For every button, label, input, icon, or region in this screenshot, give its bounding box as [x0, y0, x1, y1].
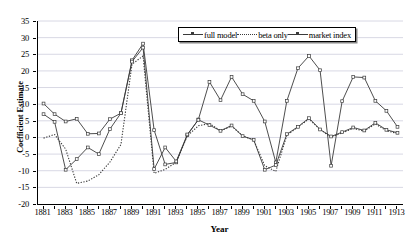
- plot-area: [37, 21, 403, 205]
- y-tick-label: -20: [18, 200, 29, 209]
- y-tick-mark: [33, 21, 36, 22]
- y-tick-mark: [33, 88, 36, 89]
- data-point-marker: [352, 76, 355, 79]
- data-point-marker: [341, 100, 344, 103]
- x-tick-label: 1885: [79, 208, 95, 217]
- data-point-marker: [330, 164, 333, 167]
- data-point-marker: [363, 129, 366, 132]
- data-point-marker: [274, 164, 277, 167]
- y-tick-label: -15: [18, 183, 29, 192]
- x-tick-mark: [76, 206, 77, 209]
- y-tick-label: 5: [25, 116, 29, 125]
- data-point-marker: [241, 135, 244, 138]
- x-tick-label: 1895: [189, 208, 205, 217]
- x-tick-label: 1897: [212, 208, 228, 217]
- data-series-layer: [38, 21, 403, 204]
- series-line-beta-only: [44, 56, 398, 183]
- data-point-marker: [75, 158, 78, 161]
- x-tick-mark: [253, 206, 254, 209]
- y-tick-mark: [33, 104, 36, 105]
- y-tick-mark: [33, 154, 36, 155]
- x-tick-mark: [186, 206, 187, 209]
- series-line-market-index: [44, 48, 398, 170]
- data-point-marker: [330, 135, 333, 138]
- data-point-marker: [164, 146, 167, 149]
- x-tick-label: 1883: [57, 208, 73, 217]
- data-point-marker: [230, 76, 233, 79]
- data-point-marker: [197, 118, 200, 121]
- x-tick-label: 1887: [101, 208, 117, 217]
- x-tick-mark: [98, 206, 99, 209]
- x-tick-mark: [208, 206, 209, 209]
- y-tick-mark: [33, 121, 36, 122]
- data-point-marker: [374, 99, 377, 102]
- data-point-marker: [252, 138, 255, 141]
- x-axis-title: Year: [37, 224, 402, 234]
- data-point-marker: [263, 120, 266, 123]
- data-point-marker: [42, 102, 45, 105]
- x-tick-mark: [319, 206, 320, 209]
- data-point-marker: [208, 124, 211, 127]
- y-tick-mark: [33, 187, 36, 188]
- data-point-marker: [108, 128, 111, 131]
- x-tick-label: 1881: [35, 208, 51, 217]
- data-point-marker: [142, 46, 145, 49]
- x-tick-mark: [297, 206, 298, 209]
- x-tick-label: 1893: [167, 208, 183, 217]
- x-tick-mark: [164, 206, 165, 209]
- data-point-marker: [230, 124, 233, 127]
- legend-line-swatch-market-index: [288, 30, 308, 39]
- data-point-marker: [308, 55, 311, 58]
- data-point-marker: [297, 67, 300, 70]
- data-point-marker: [396, 131, 399, 134]
- data-point-marker: [263, 168, 266, 171]
- data-point-marker: [53, 113, 56, 116]
- data-point-marker: [241, 93, 244, 96]
- x-tick-label: 1909: [344, 208, 360, 217]
- data-point-marker: [153, 168, 156, 171]
- x-tick-label: 1899: [234, 208, 250, 217]
- x-tick-label: 1913: [389, 208, 405, 217]
- data-point-marker: [219, 129, 222, 132]
- x-tick-mark: [363, 206, 364, 209]
- y-tick-mark: [33, 38, 36, 39]
- y-tick-label: 30: [21, 33, 29, 42]
- data-point-marker: [374, 121, 377, 124]
- y-tick-mark: [33, 137, 36, 138]
- y-tick-label: 0: [25, 133, 29, 142]
- data-point-marker: [385, 128, 388, 131]
- data-point-marker: [97, 153, 100, 156]
- legend-label-full-model: full model: [204, 30, 237, 40]
- data-point-marker: [53, 120, 56, 123]
- chart-legend: full model beta only market index: [178, 27, 356, 42]
- series-line-full-model: [44, 44, 398, 166]
- x-tick-label: 1907: [322, 208, 338, 217]
- y-axis-title: Coefficient Estimate: [15, 57, 25, 177]
- data-point-marker: [120, 112, 123, 115]
- data-point-marker: [319, 128, 322, 131]
- data-point-marker: [142, 42, 145, 45]
- legend-item-full-model: full model: [183, 30, 237, 40]
- coefficient-estimate-line-chart: -20-15-10-505101520253035 Coefficient Es…: [0, 0, 412, 240]
- x-tick-mark: [142, 206, 143, 209]
- legend-label-market-index: market index: [309, 30, 351, 40]
- data-point-marker: [64, 120, 67, 123]
- data-point-marker: [285, 99, 288, 102]
- data-point-marker: [219, 99, 222, 102]
- x-tick-mark: [385, 206, 386, 209]
- x-tick-label: 1891: [145, 208, 161, 217]
- x-tick-mark: [275, 206, 276, 209]
- data-point-marker: [108, 118, 111, 121]
- data-point-marker: [153, 129, 156, 132]
- data-point-marker: [164, 163, 167, 166]
- x-axis-tick-labels: 1881188318851887188918911893189518971899…: [37, 206, 402, 220]
- legend-line-swatch-beta-only: [237, 30, 257, 39]
- x-tick-mark: [341, 206, 342, 209]
- x-tick-mark: [231, 206, 232, 209]
- data-point-marker: [385, 109, 388, 112]
- y-tick-mark: [33, 71, 36, 72]
- y-tick-mark: [33, 54, 36, 55]
- data-point-marker: [131, 60, 134, 63]
- y-tick-label: 35: [21, 17, 29, 26]
- x-tick-label: 1903: [278, 208, 294, 217]
